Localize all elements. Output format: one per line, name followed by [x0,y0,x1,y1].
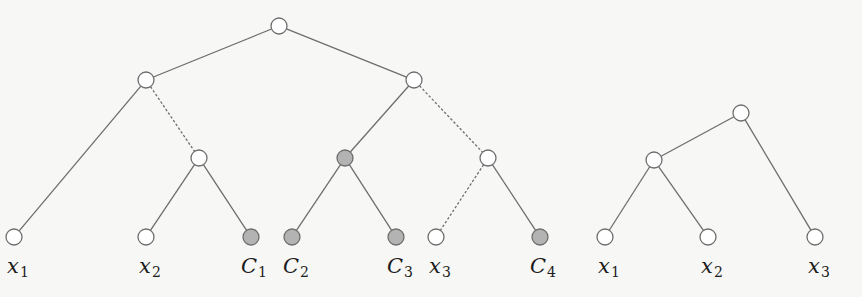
label-subscript: 1 [258,264,267,280]
dashed-edge [440,165,483,231]
label-subscript: 3 [821,264,830,280]
label-base: x [429,254,441,278]
label-subscript: 2 [152,264,161,280]
edge [745,120,811,230]
label-subscript: 4 [547,264,556,280]
label-x2-right: x2 [701,256,723,279]
label-C4: C4 [530,256,556,279]
node [138,72,154,88]
edge [286,29,406,77]
edge [350,86,408,152]
label-subscript: 1 [611,264,620,280]
edge [153,29,271,77]
dashed-edge [420,86,483,152]
node [406,72,422,88]
node [597,229,613,245]
tree-right [597,105,823,245]
edge [661,117,734,156]
edge [150,165,194,231]
label-subscript: 2 [714,264,723,280]
node [807,229,823,245]
label-base: C [530,254,546,278]
node [138,229,154,245]
node [646,152,662,168]
shaded-node [284,229,300,245]
node [191,150,207,166]
shaded-node [337,150,353,166]
label-base: C [283,254,299,278]
node [733,105,749,121]
label-subscript: 2 [300,264,309,280]
node [480,150,496,166]
node [6,229,22,245]
tree-left [6,18,548,245]
node [700,229,716,245]
label-base: x [808,254,820,278]
dashed-edge [150,87,194,152]
label-subscript: 3 [404,264,413,280]
node [271,18,287,34]
node [428,229,444,245]
label-base: C [387,254,403,278]
label-x1-left: x1 [7,256,29,279]
label-x2-left: x2 [139,256,161,279]
label-base: x [701,254,713,278]
label-base: x [139,254,151,278]
edge [203,165,246,231]
tree-diagram-graphic [0,0,862,297]
label-x3-left: x3 [429,256,451,279]
tree-diagram: x1x2C1C2C3x3C4x1x2x3 [0,0,862,297]
label-subscript: 1 [20,264,29,280]
edge [609,167,649,231]
label-base: C [241,254,257,278]
edge [659,167,704,231]
shaded-node [532,229,548,245]
shaded-node [243,229,259,245]
edge [296,165,340,231]
shaded-node [388,229,404,245]
edge [349,165,391,231]
label-base: x [598,254,610,278]
edge [19,86,141,231]
label-C3: C3 [387,256,413,279]
label-base: x [7,254,19,278]
edge [492,165,535,231]
label-x1-right: x1 [598,256,620,279]
label-C1: C1 [241,256,267,279]
label-x3-right: x3 [808,256,830,279]
label-C2: C2 [283,256,309,279]
label-subscript: 3 [442,264,451,280]
